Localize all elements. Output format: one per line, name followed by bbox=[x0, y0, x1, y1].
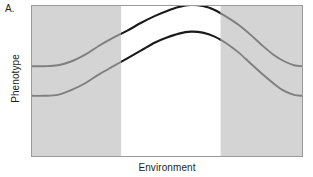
plot-area bbox=[31, 5, 303, 157]
x-axis-label: Environment bbox=[138, 162, 195, 173]
reaction-norm-figure: A. Phenotype Environment bbox=[0, 0, 313, 177]
right-shaded-band bbox=[221, 6, 302, 156]
x-axis-label-container: Environment bbox=[31, 158, 303, 177]
panel-label: A. bbox=[5, 3, 15, 15]
center-unshaded-band bbox=[121, 6, 220, 156]
background-bands bbox=[32, 6, 302, 156]
y-axis-label: Phenotype bbox=[10, 54, 21, 103]
left-shaded-band bbox=[32, 6, 121, 156]
plot-canvas bbox=[32, 6, 302, 156]
y-axis-label-container: Phenotype bbox=[0, 0, 31, 157]
